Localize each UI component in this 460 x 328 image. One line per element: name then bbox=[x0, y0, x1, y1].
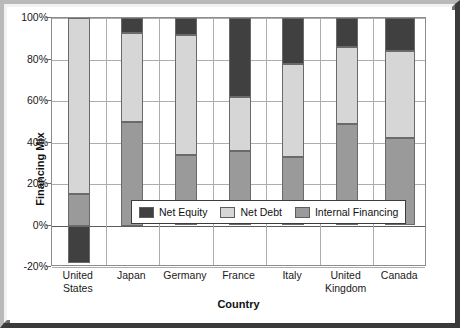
bar-segment[interactable] bbox=[229, 97, 251, 151]
legend-item[interactable]: Net Debt bbox=[220, 207, 281, 218]
bar-group[interactable] bbox=[175, 18, 197, 265]
y-tick-label: 100% bbox=[12, 12, 48, 22]
plot-area bbox=[51, 17, 426, 266]
column-separator bbox=[373, 18, 374, 265]
x-tick-label: France bbox=[212, 269, 266, 282]
gridline--20 bbox=[52, 267, 425, 268]
column-separator bbox=[159, 18, 160, 265]
bar-segment[interactable] bbox=[68, 18, 90, 194]
bar-segment[interactable] bbox=[121, 33, 143, 122]
legend-swatch-icon bbox=[139, 207, 154, 218]
bar-segment[interactable] bbox=[282, 18, 304, 64]
x-tick-label: Italy bbox=[265, 269, 319, 282]
legend-item[interactable]: Net Equity bbox=[139, 207, 207, 218]
x-tick-label: UnitedKingdom bbox=[319, 269, 373, 295]
y-tick-label: 60% bbox=[12, 95, 48, 105]
bar-segment[interactable] bbox=[68, 194, 90, 225]
bar-group[interactable] bbox=[229, 18, 251, 265]
bar-segment[interactable] bbox=[336, 47, 358, 124]
x-axis-label: Country bbox=[51, 298, 426, 310]
bar-segment[interactable] bbox=[121, 18, 143, 33]
bar-segment[interactable] bbox=[175, 35, 197, 155]
y-tick-label: 0% bbox=[12, 220, 48, 230]
legend-item[interactable]: Internal Financing bbox=[295, 207, 398, 218]
y-tick-label: 40% bbox=[12, 137, 48, 147]
bar-segment[interactable] bbox=[336, 18, 358, 47]
x-tick-label-line: United bbox=[51, 269, 105, 282]
y-tick-mark bbox=[46, 266, 51, 267]
column-separator bbox=[266, 18, 267, 265]
bar-segment[interactable] bbox=[385, 51, 415, 138]
x-tick-label-line: Kingdom bbox=[319, 282, 373, 295]
x-tick-label: UnitedStates bbox=[51, 269, 105, 295]
bar-segment[interactable] bbox=[385, 18, 415, 51]
x-tick-label-line: States bbox=[51, 282, 105, 295]
figure-outer-bevel: Financing Mix 100%80%60%40%20%0%-20% Net… bbox=[0, 0, 460, 328]
legend-label: Net Debt bbox=[240, 207, 281, 218]
chart-legend: Net EquityNet DebtInternal Financing bbox=[131, 200, 406, 224]
bar-group[interactable] bbox=[336, 18, 358, 265]
figure-inner-bevel: Financing Mix 100%80%60%40%20%0%-20% Net… bbox=[4, 4, 455, 323]
bar-group[interactable] bbox=[385, 18, 415, 265]
bar-group[interactable] bbox=[121, 18, 143, 265]
column-separator bbox=[213, 18, 214, 265]
x-tick-label-line: Germany bbox=[158, 269, 212, 282]
x-tick-label-line: Italy bbox=[265, 269, 319, 282]
legend-swatch-icon bbox=[220, 207, 235, 218]
x-tick-label-line: Japan bbox=[105, 269, 159, 282]
x-tick-label: Canada bbox=[372, 269, 426, 282]
bar-segment[interactable] bbox=[175, 18, 197, 35]
y-tick-label: 80% bbox=[12, 54, 48, 64]
bar-segment[interactable] bbox=[282, 64, 304, 157]
bar-group[interactable] bbox=[68, 18, 90, 265]
column-separator bbox=[320, 18, 321, 265]
column-separator bbox=[106, 18, 107, 265]
x-tick-label-line: France bbox=[212, 269, 266, 282]
bar-segment[interactable] bbox=[68, 226, 90, 263]
legend-label: Internal Financing bbox=[315, 207, 398, 218]
y-tick-label: 20% bbox=[12, 178, 48, 188]
x-tick-label: Japan bbox=[105, 269, 159, 282]
chart-canvas: Financing Mix 100%80%60%40%20%0%-20% Net… bbox=[10, 10, 455, 323]
bar-group[interactable] bbox=[282, 18, 304, 265]
x-tick-label-line: United bbox=[319, 269, 373, 282]
legend-swatch-icon bbox=[295, 207, 310, 218]
y-tick-label: -20% bbox=[12, 261, 48, 271]
y-axis-ticks: 100%80%60%40%20%0%-20% bbox=[10, 17, 48, 266]
legend-label: Net Equity bbox=[159, 207, 207, 218]
x-tick-label: Germany bbox=[158, 269, 212, 282]
x-tick-label-line: Canada bbox=[372, 269, 426, 282]
bar-segment[interactable] bbox=[229, 18, 251, 97]
